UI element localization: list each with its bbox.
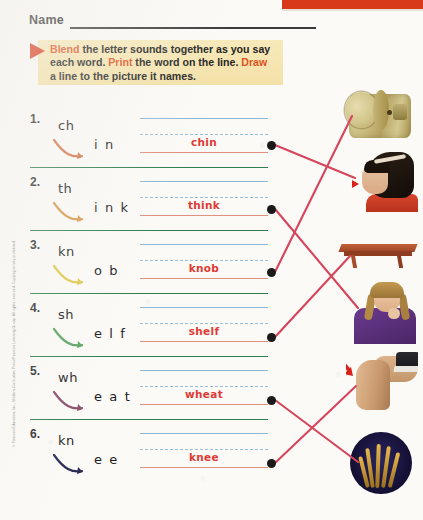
instruction-callout: Blend the letter sounds together as you …: [30, 40, 283, 85]
think-hand: [388, 308, 400, 319]
handwriting-lines[interactable]: knee: [140, 430, 268, 474]
written-answer: knee: [140, 451, 268, 463]
name-write-line[interactable]: [70, 27, 316, 29]
hw-dashed-midline: [140, 386, 268, 387]
blend-arrow-icon: [52, 443, 102, 477]
exercise-row-3: 3. kn o b knob: [0, 236, 280, 299]
row-number: 2.: [30, 175, 40, 189]
knee-shorts-hem: [393, 366, 418, 372]
hw-top-line: [140, 244, 268, 245]
knee-photo[interactable]: [346, 352, 418, 410]
instruction-part-2: each word.: [50, 56, 108, 68]
shelf-bracket-right: [397, 255, 403, 268]
pointer-arrow-icon: [352, 178, 360, 190]
connector-dot-2[interactable]: [267, 205, 276, 214]
name-field-row: Name: [29, 12, 291, 30]
row-divider: [30, 230, 268, 231]
handwriting-lines[interactable]: knob: [140, 241, 268, 285]
name-label: Name: [29, 13, 64, 27]
written-answer: knob: [140, 262, 268, 274]
connector-dot-4[interactable]: [267, 333, 276, 342]
row-number: 5.: [30, 364, 40, 378]
row-divider: [30, 419, 268, 420]
instruction-text: Blend the letter sounds together as you …: [50, 43, 275, 83]
wheat-photo[interactable]: [350, 432, 412, 494]
knob-stem: [393, 104, 407, 120]
handwriting-lines[interactable]: think: [140, 178, 268, 222]
doorknob-photo[interactable]: [343, 88, 417, 144]
match-line-5-knee-from6: [275, 386, 356, 463]
hw-baseline: [140, 341, 268, 342]
exercise-row-6: 6. kn e e knee: [0, 425, 280, 488]
row-number: 6.: [30, 427, 40, 441]
top-red-banner: [282, 0, 423, 9]
blend-arrow-icon: [52, 191, 102, 225]
handwriting-lines[interactable]: wheat: [140, 367, 268, 411]
shelf-photo[interactable]: [338, 238, 418, 272]
connector-dot-3[interactable]: [267, 268, 276, 277]
shelf-bracket-left: [351, 255, 357, 268]
row-divider: [30, 356, 268, 357]
written-answer: wheat: [140, 388, 268, 400]
hw-top-line: [140, 118, 268, 119]
connector-dot-1[interactable]: [267, 141, 276, 150]
row-number: 4.: [30, 301, 40, 315]
pointer-arrow-icon: [346, 358, 358, 380]
exercise-row-5: 5. wh e a t wheat: [0, 362, 280, 425]
hw-top-line: [140, 307, 268, 308]
triangle-pointer-icon: [30, 43, 45, 59]
blend-arrow-icon: [52, 128, 102, 162]
hw-top-line: [140, 181, 268, 182]
keyword-blend: Blend: [50, 43, 79, 55]
blend-arrow-icon: [52, 380, 102, 414]
row-number: 3.: [30, 238, 40, 252]
hw-dashed-midline: [140, 449, 268, 450]
written-answer: chin: [140, 136, 268, 148]
keyword-print: Print: [108, 56, 132, 68]
connector-dot-6[interactable]: [267, 459, 276, 468]
handwriting-lines[interactable]: chin: [140, 115, 268, 159]
think-hair: [370, 282, 404, 298]
row-number: 1.: [30, 112, 40, 126]
connector-dot-5[interactable]: [267, 396, 276, 405]
blend-arrow-icon: [52, 317, 102, 351]
written-answer: shelf: [140, 325, 268, 337]
written-answer: think: [140, 199, 268, 211]
girl-thinking-photo[interactable]: [352, 282, 418, 344]
keyword-draw: Draw: [241, 56, 267, 68]
girl-chin-photo[interactable]: [352, 150, 418, 212]
knob-screw: [387, 110, 392, 115]
row-divider: [30, 293, 268, 294]
hw-dashed-midline: [140, 197, 268, 198]
exercise-row-2: 2. th i n k think: [0, 173, 280, 236]
exercise-row-4: 4. sh e l f shelf: [0, 299, 280, 362]
match-line-1-chin: [275, 145, 355, 178]
hw-baseline: [140, 278, 268, 279]
hw-dashed-midline: [140, 260, 268, 261]
instruction-part-1: the letter sounds together as you say: [79, 43, 270, 55]
hw-baseline: [140, 152, 268, 153]
hw-baseline: [140, 215, 268, 216]
hw-dashed-midline: [140, 323, 268, 324]
handwriting-lines[interactable]: shelf: [140, 304, 268, 348]
blend-arrow-icon: [52, 254, 102, 288]
instruction-part-3: the word on the line.: [132, 56, 238, 68]
hw-baseline: [140, 467, 268, 468]
hw-dashed-midline: [140, 134, 268, 135]
copyright-notice: © Pearson Education, Inc., Modern Curric…: [12, 247, 16, 447]
instruction-part-4: a line to the picture it names.: [50, 70, 196, 82]
hw-top-line: [140, 433, 268, 434]
exercise-row-1: 1. ch i n chin: [0, 110, 280, 173]
knee-lower-leg: [356, 360, 390, 410]
hw-baseline: [140, 404, 268, 405]
row-divider: [30, 167, 268, 168]
hw-top-line: [140, 370, 268, 371]
